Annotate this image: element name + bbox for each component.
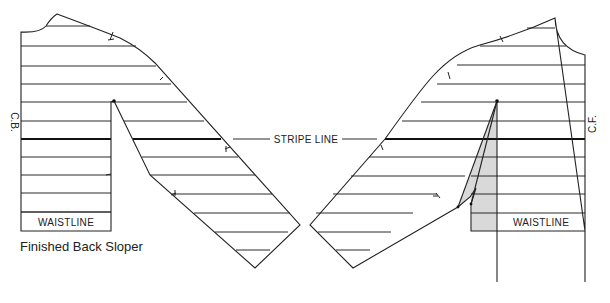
back-waistline-label: WAISTLINE <box>38 217 94 228</box>
pattern-diagram: WAISTLINE C.B. Finished Back Sloper STRI… <box>0 0 610 303</box>
dart-point <box>457 206 460 209</box>
back-sloper-outline <box>21 14 300 268</box>
front-waistline-label: WAISTLINE <box>513 217 569 228</box>
dart-point <box>495 99 499 103</box>
back-sloper: WAISTLINE C.B. Finished Back Sloper <box>9 14 300 268</box>
back-sloper-caption: Finished Back Sloper <box>20 239 144 254</box>
notch-mark <box>160 77 163 80</box>
front-sloper: WAISTLINE C.F. <box>310 18 598 282</box>
notch-mark <box>381 145 383 150</box>
stripe-line-callout: STRIPE LINE <box>233 134 377 145</box>
dart-point <box>112 99 116 103</box>
notch-mark <box>108 39 114 40</box>
notch-mark <box>448 72 450 79</box>
stripe-line-label: STRIPE LINE <box>274 134 338 145</box>
center-back-label: C.B. <box>9 112 20 131</box>
front-sloper-outline <box>310 18 585 282</box>
dart-point <box>470 203 473 206</box>
center-front-label: C.F. <box>587 115 598 133</box>
